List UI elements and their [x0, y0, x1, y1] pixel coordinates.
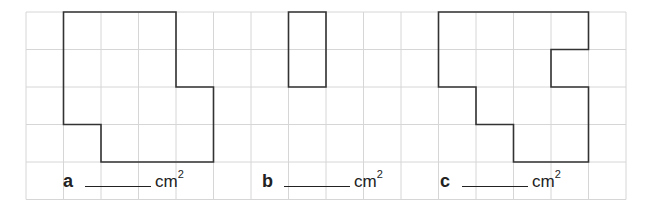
answer-blank[interactable]	[284, 172, 350, 187]
unit-label: cm2	[155, 170, 184, 192]
question-letter: b	[262, 171, 284, 192]
answer-blank[interactable]	[462, 172, 528, 187]
answer-blank[interactable]	[85, 172, 151, 187]
answer-a: a cm2	[63, 170, 184, 192]
question-letter: a	[63, 171, 85, 192]
question-letter: c	[440, 171, 462, 192]
answer-c: c cm2	[440, 170, 561, 192]
unit-label: cm2	[354, 170, 383, 192]
unit-label: cm2	[532, 170, 561, 192]
answer-b: b cm2	[262, 170, 383, 192]
